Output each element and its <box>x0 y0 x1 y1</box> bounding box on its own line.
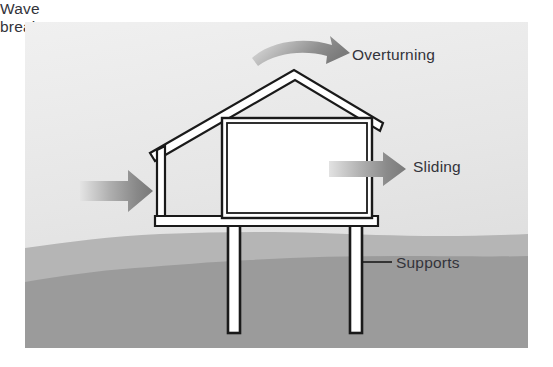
label-sliding: Sliding <box>413 158 461 176</box>
left-support-post <box>228 218 240 333</box>
left-exterior-wall <box>157 146 165 222</box>
label-overturning: Overturning <box>352 46 435 64</box>
label-supports: Supports <box>396 254 460 272</box>
figure-root: Overturning Sliding Supports Wave break <box>0 0 553 367</box>
diagram-canvas <box>0 0 553 367</box>
right-support-post <box>350 218 362 333</box>
